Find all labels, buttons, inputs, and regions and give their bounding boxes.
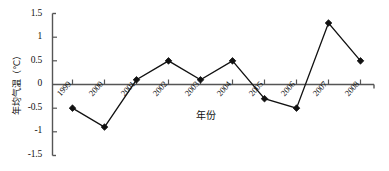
x-axis-title: 年份 [196, 110, 216, 121]
chart-container: 年均气温（℃） 1.5 1 0.5 0 -0.5 -1 -1.5 [0, 0, 389, 171]
data-point-marker [69, 105, 76, 112]
series-line [73, 23, 361, 127]
data-point-marker [293, 105, 300, 112]
data-point-marker [165, 58, 172, 65]
